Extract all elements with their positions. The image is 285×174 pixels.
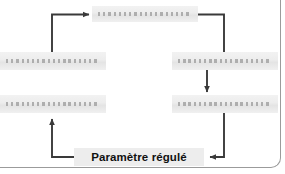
redacted-label (178, 59, 271, 63)
edge-output-to-lowleft (52, 119, 74, 157)
flowchart-node-lower-left[interactable] (0, 95, 106, 113)
redacted-label (6, 59, 99, 63)
flowchart-node-output[interactable]: Paramètre régulé (74, 148, 204, 166)
edge-lowright-to-output (210, 113, 224, 157)
flowchart-figure: Paramètre régulé (0, 0, 285, 174)
flowchart-node-output-label: Paramètre régulé (91, 151, 187, 163)
flowchart-node-middle-left[interactable] (0, 52, 106, 70)
flowchart-node-top[interactable] (92, 6, 198, 22)
redacted-label (98, 12, 191, 16)
flowchart-node-middle-right[interactable] (172, 52, 278, 70)
edge-top-to-midright (198, 15, 224, 54)
redacted-label (178, 102, 271, 106)
flowchart-node-lower-right[interactable] (172, 95, 278, 113)
redacted-label (6, 102, 99, 106)
